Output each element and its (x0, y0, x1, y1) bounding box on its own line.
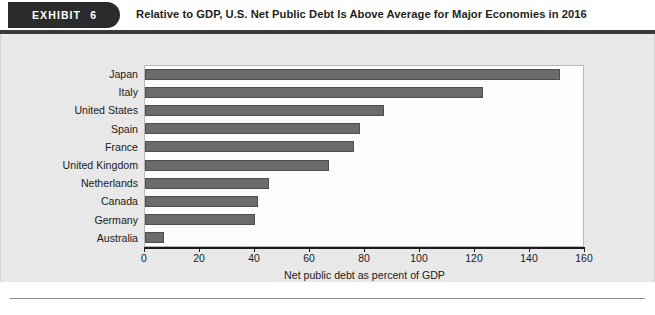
footer-divider (10, 298, 645, 299)
x-tick (584, 247, 585, 252)
x-tick-label: 160 (575, 253, 592, 264)
category-label: Netherlands (1, 174, 138, 192)
category-label: Australia (1, 229, 138, 247)
x-tick-label: 80 (358, 253, 370, 264)
bar-row: Canada (1, 192, 655, 210)
category-label: United States (1, 101, 138, 119)
exhibit-tab-label: EXHIBIT (32, 9, 81, 21)
bar-germany (145, 214, 255, 225)
bar-japan (145, 69, 560, 80)
chart-area: JapanItalyUnited StatesSpainFranceUnited… (0, 34, 655, 282)
bar-row: Spain (1, 120, 655, 138)
x-tick (529, 247, 530, 252)
x-tick-label: 60 (303, 253, 315, 264)
bar-row: Netherlands (1, 174, 655, 192)
x-axis-title: Net public debt as percent of GDP (144, 269, 585, 281)
category-label: United Kingdom (1, 156, 138, 174)
bar-row: United Kingdom (1, 156, 655, 174)
bar-netherlands (145, 178, 269, 189)
category-label: France (1, 138, 138, 156)
x-tick-label: 100 (410, 253, 427, 264)
bar-row: Japan (1, 65, 655, 83)
category-label: Spain (1, 120, 138, 138)
x-tick (419, 247, 420, 252)
bar-spain (145, 123, 360, 134)
bar-united-states (145, 105, 384, 116)
x-tick (144, 247, 145, 252)
category-label: Italy (1, 83, 138, 101)
exhibit-tab-number: 6 (90, 9, 96, 21)
exhibit-tab: EXHIBIT 6 (8, 2, 120, 28)
bar-italy (145, 87, 483, 98)
bar-row: Italy (1, 83, 655, 101)
category-label: Japan (1, 65, 138, 83)
bar-france (145, 141, 354, 152)
x-tick (309, 247, 310, 252)
category-label: Canada (1, 192, 138, 210)
bar-rows: JapanItalyUnited StatesSpainFranceUnited… (1, 65, 655, 247)
x-tick-label: 120 (465, 253, 482, 264)
x-tick (254, 247, 255, 252)
x-tick-label: 140 (520, 253, 537, 264)
x-tick (364, 247, 365, 252)
exhibit-figure: EXHIBIT 6 Relative to GDP, U.S. Net Publ… (0, 0, 655, 315)
x-tick (474, 247, 475, 252)
x-tick-label: 40 (248, 253, 260, 264)
bar-australia (145, 232, 164, 243)
x-tick (199, 247, 200, 252)
exhibit-header: EXHIBIT 6 Relative to GDP, U.S. Net Publ… (0, 0, 655, 30)
x-tick-label: 0 (141, 253, 147, 264)
category-label: Germany (1, 211, 138, 229)
bar-row: Germany (1, 211, 655, 229)
bar-row: United States (1, 101, 655, 119)
bar-row: Australia (1, 229, 655, 247)
bar-row: France (1, 138, 655, 156)
x-tick-label: 20 (193, 253, 205, 264)
exhibit-title: Relative to GDP, U.S. Net Public Debt Is… (136, 8, 587, 20)
bar-canada (145, 196, 258, 207)
bar-united-kingdom (145, 160, 329, 171)
